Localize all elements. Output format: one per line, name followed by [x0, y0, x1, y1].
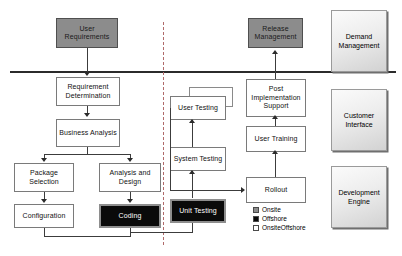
node-user-testing[interactable]: User Testing: [170, 96, 226, 120]
connector-system-testing-to-user-testing: [192, 120, 193, 147]
panel-label: Customer Interface: [332, 111, 386, 129]
node-label: Release Management: [250, 25, 301, 42]
node-label: Requirement Determination: [58, 83, 118, 100]
legend: Onsite Offshore OnsiteOffshore: [253, 206, 306, 233]
arrowhead-up-post-implementation-support: [272, 115, 278, 119]
connector-rollout-to-user-training: [275, 152, 276, 177]
connector-business-analysis-stem: [87, 147, 88, 154]
connector-post-implementation-support-to-release-management: [275, 54, 276, 79]
node-label: Unit Testing: [179, 207, 217, 216]
arrowhead-up-system-testing: [189, 170, 195, 174]
arrowhead-down-business-analysis: [84, 113, 90, 117]
node-post-implementation-support[interactable]: Post Implementation Support: [246, 79, 306, 117]
node-label: System Testing: [174, 155, 223, 164]
node-package-selection[interactable]: Package Selection: [14, 163, 74, 192]
arrowhead-up-user-training: [272, 150, 278, 154]
arrowhead-down-analysis-and-design: [127, 158, 133, 162]
legend-label-offshore: Offshore: [262, 215, 287, 223]
panel-label: Demand Management: [332, 32, 386, 50]
node-label: Analysis and Design: [101, 169, 159, 186]
arrowhead-down-coding: [127, 199, 133, 203]
panel-label: Development Engine: [332, 188, 386, 206]
node-coding[interactable]: Coding: [99, 204, 161, 228]
connector-user-testing-elbow-down: [170, 108, 171, 190]
node-label: Rollout: [265, 186, 288, 195]
node-release-management[interactable]: Release Management: [248, 18, 303, 48]
node-rollout[interactable]: Rollout: [246, 177, 306, 203]
node-label: User Testing: [178, 104, 218, 113]
node-label: Coding: [119, 212, 142, 221]
onsite-offshore-divider: [163, 22, 164, 245]
connector-bottom-bus-to-unit-testing: [130, 232, 193, 233]
legend-item-onsite: Onsite: [253, 206, 306, 214]
process-flow-diagram: User Requirements Requirement Determinat…: [0, 0, 402, 256]
legend-swatch-onsite-icon: [253, 207, 259, 213]
node-system-testing[interactable]: System Testing: [170, 147, 226, 171]
arrowhead-down-requirement-determination: [84, 72, 90, 76]
node-user-training[interactable]: User Training: [246, 126, 306, 152]
node-business-analysis[interactable]: Business Analysis: [56, 119, 120, 147]
node-analysis-and-design[interactable]: Analysis and Design: [99, 163, 161, 192]
connector-business-analysis-split-bus: [44, 154, 130, 155]
legend-label-onsite-offshore: OnsiteOffshore: [262, 224, 306, 232]
connector-up-into-unit-testing: [192, 222, 193, 233]
node-label: Configuration: [23, 212, 66, 221]
legend-item-onsite-offshore: OnsiteOffshore: [253, 224, 306, 232]
connector-bottom-bus-left: [44, 236, 130, 237]
arrowhead-down-configuration: [41, 199, 47, 203]
arrowhead-down-package-selection: [41, 158, 47, 162]
connector-user-requirements-to-requirement-determination: [87, 48, 88, 73]
connector-unit-testing-to-system-testing: [192, 171, 193, 198]
legend-item-offshore: Offshore: [253, 215, 306, 223]
legend-label-onsite: Onsite: [262, 206, 281, 214]
legend-swatch-offshore-icon: [253, 216, 259, 222]
node-label: Business Analysis: [59, 129, 117, 138]
node-label: User Training: [255, 135, 298, 144]
node-label: Package Selection: [16, 169, 72, 186]
node-label: User Requirements: [58, 25, 116, 42]
arrowhead-up-release-management: [272, 50, 278, 54]
node-unit-testing[interactable]: Unit Testing: [170, 199, 226, 223]
node-label: Post Implementation Support: [248, 85, 304, 111]
node-requirement-determination[interactable]: Requirement Determination: [56, 77, 120, 106]
node-user-requirements[interactable]: User Requirements: [56, 18, 118, 48]
arrowhead-up-user-testing: [189, 119, 195, 123]
connector-user-testing-elbow-to-rollout: [170, 190, 242, 191]
panel-development-engine[interactable]: Development Engine: [331, 166, 387, 228]
panel-customer-interface[interactable]: Customer Interface: [331, 89, 387, 151]
node-configuration[interactable]: Configuration: [14, 204, 74, 228]
arrowhead-right-rollout: [241, 187, 245, 193]
legend-swatch-onsite-offshore-icon: [253, 225, 259, 231]
panel-demand-management[interactable]: Demand Management: [331, 10, 387, 72]
